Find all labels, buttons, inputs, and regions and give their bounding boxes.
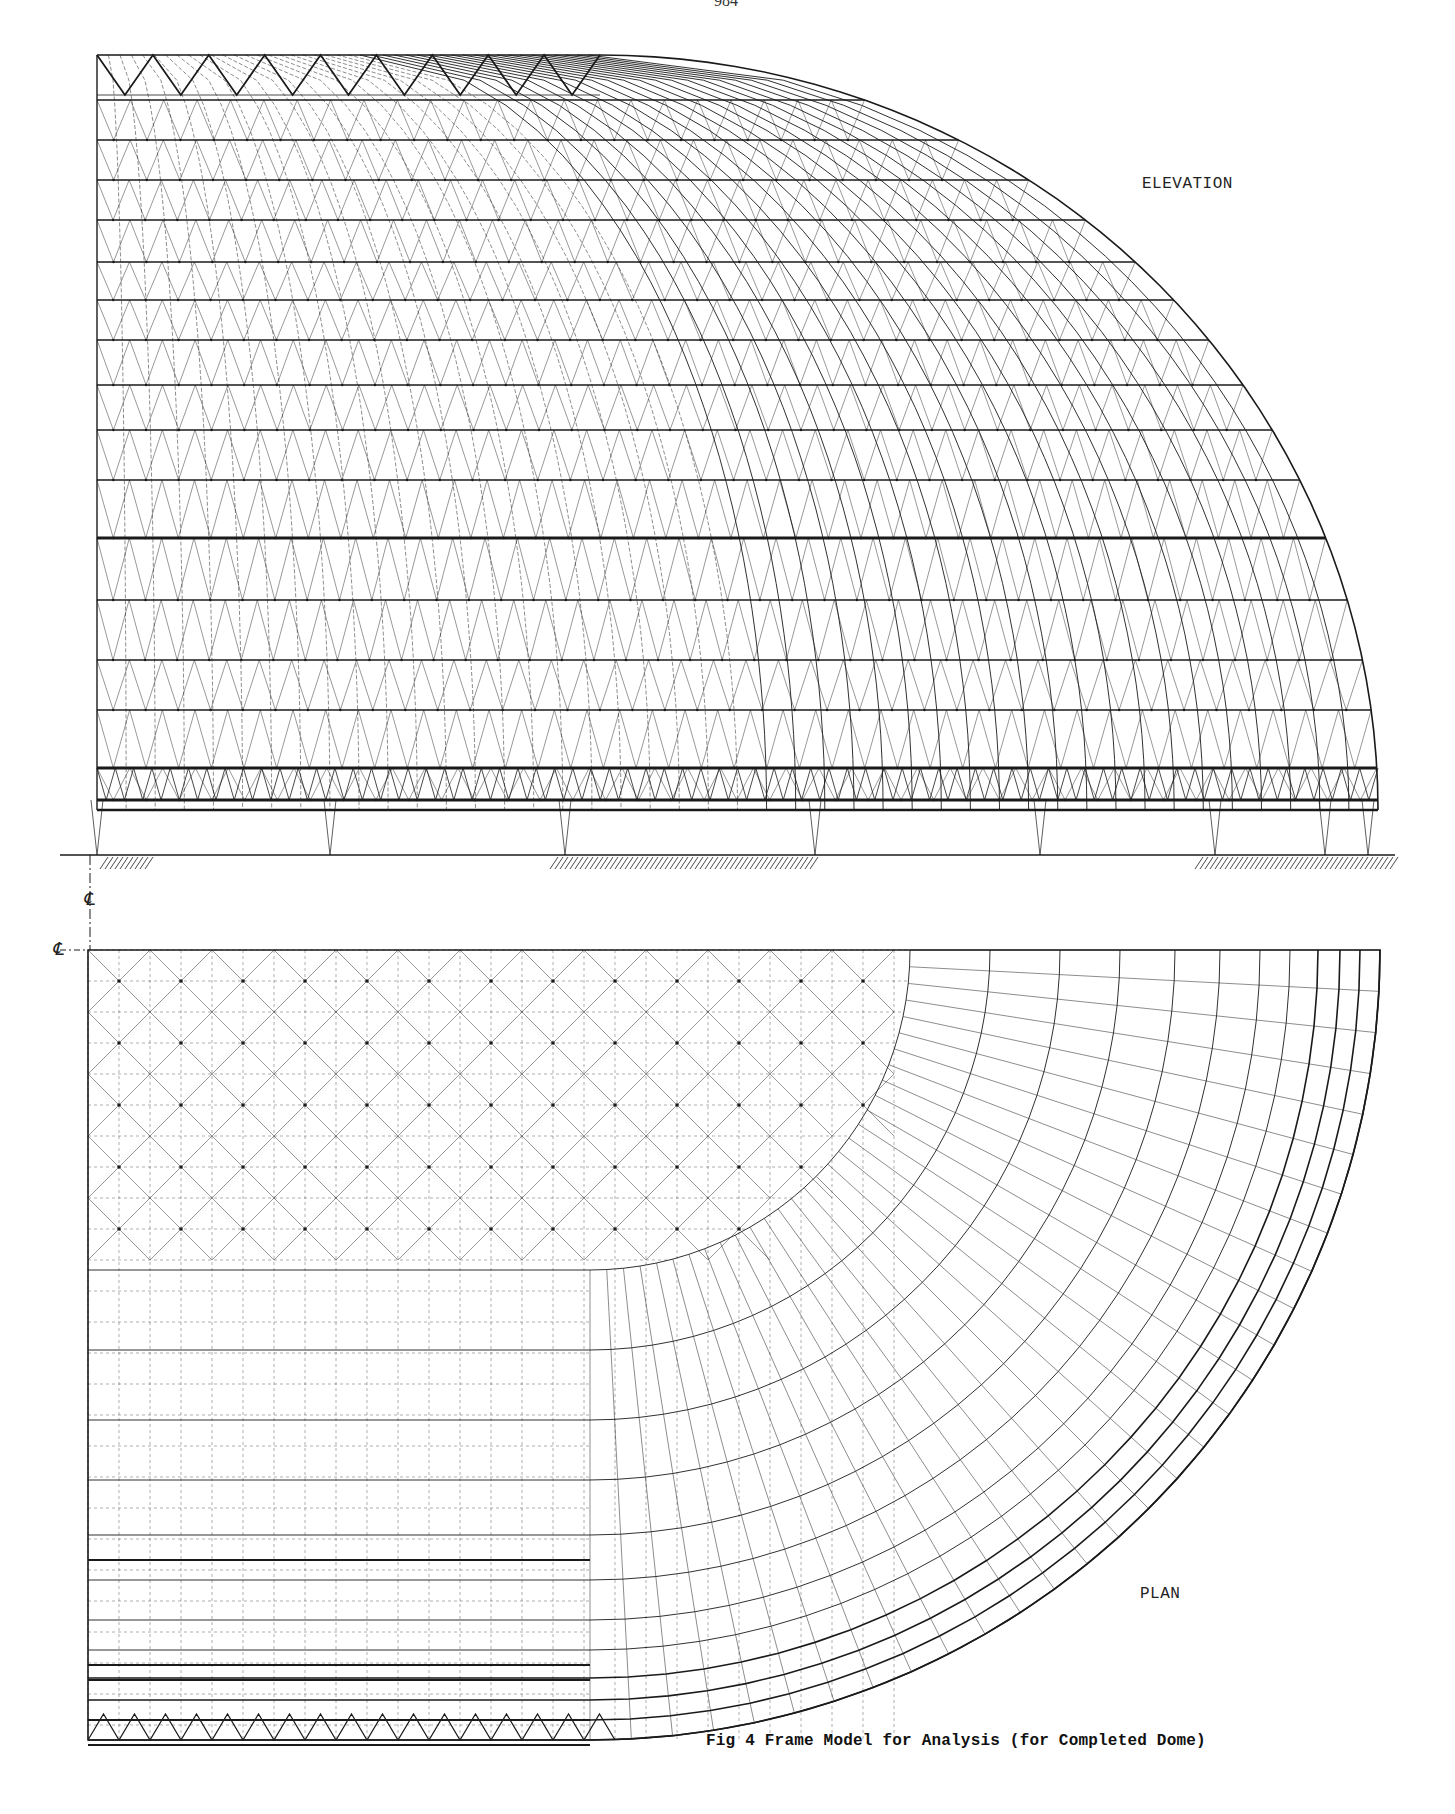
elevation-label: ELEVATION xyxy=(1142,175,1233,193)
plan-label: PLAN xyxy=(1140,1585,1180,1603)
frame-model-drawing xyxy=(0,0,1455,1814)
centerline-symbol-elevation: ℄ xyxy=(83,888,95,910)
centerline-symbol-plan: ℄ xyxy=(52,938,64,960)
figure-caption: Fig 4 Frame Model for Analysis (for Comp… xyxy=(706,1732,1206,1750)
plan-view xyxy=(60,950,1380,1745)
